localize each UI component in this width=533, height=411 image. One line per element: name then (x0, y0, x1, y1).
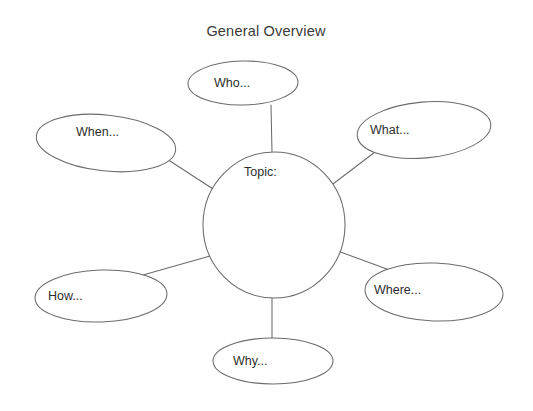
bubble-map-diagram: General Overview Topic: Who... What... W… (0, 0, 533, 411)
branch-node-what[interactable]: What... (355, 96, 493, 163)
diagram-canvas: General Overview Topic: Who... What... W… (0, 0, 533, 411)
branch-when-label: When... (76, 125, 119, 139)
connector-how (143, 256, 210, 275)
branch-how-label: How... (48, 289, 83, 303)
branch-what-label: What... (370, 123, 410, 137)
center-node[interactable]: Topic: (203, 152, 345, 298)
branch-node-who[interactable]: Who... (188, 60, 299, 106)
connector-where (335, 250, 395, 272)
branch-why-label: Why... (233, 354, 268, 368)
connector-who (271, 105, 272, 153)
branch-why-ellipse[interactable] (213, 338, 333, 384)
branch-when-ellipse[interactable] (33, 108, 178, 178)
branch-node-why[interactable]: Why... (213, 338, 333, 384)
connector-when (167, 159, 213, 189)
branch-where-label: Where... (374, 283, 421, 297)
branch-node-where[interactable]: Where... (364, 261, 504, 324)
branch-node-how[interactable]: How... (34, 268, 168, 325)
diagram-title: General Overview (206, 23, 326, 39)
connector-what (333, 152, 375, 184)
branch-who-label: Who... (214, 76, 250, 90)
branch-node-when[interactable]: When... (33, 108, 178, 178)
center-node-label: Topic: (244, 165, 277, 179)
